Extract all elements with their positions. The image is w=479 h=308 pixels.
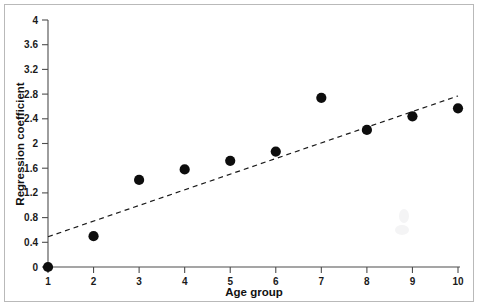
y-tick-marks [42,20,48,267]
x-tick-label: 4 [182,276,188,287]
x-tick-label: 7 [319,276,325,287]
data-point [134,175,144,185]
data-point [88,231,98,241]
y-tick-label: 3.2 [24,64,38,75]
data-point [453,103,463,113]
data-point [180,164,190,174]
data-point [43,262,53,272]
scatter-plot: 00.40.81.21.622.42.83.23.64 12345678910 … [0,0,479,308]
y-axis-title: Regression coefficient [14,82,26,206]
x-axis-title: Age group [225,286,283,298]
y-tick-labels: 00.40.81.21.622.42.83.23.64 [24,15,38,273]
data-points [43,93,463,272]
x-tick-label: 2 [91,276,97,287]
y-tick-label: 0.4 [24,237,38,248]
y-axis [42,20,48,267]
x-tick-label: 8 [364,276,370,287]
data-point [362,125,372,135]
data-point [316,93,326,103]
y-tick-label: 0.8 [24,212,38,223]
y-tick-label: 3.6 [24,39,38,50]
x-tick-label: 10 [452,276,464,287]
y-tick-label: 2.8 [24,89,38,100]
data-point [407,111,417,121]
x-tick-label: 1 [45,276,51,287]
x-tick-label: 9 [410,276,416,287]
figure-container: 00.40.81.21.622.42.83.23.64 12345678910 … [0,0,479,308]
data-point [225,156,235,166]
x-axis [48,267,460,273]
y-tick-label: 0 [32,262,38,273]
y-tick-label: 2.4 [24,113,38,124]
y-tick-label: 2 [32,138,38,149]
trend-line [48,96,458,237]
y-tick-label: 1.2 [24,187,38,198]
x-tick-label: 3 [136,276,142,287]
scan-artifact [395,209,409,235]
data-point [271,146,281,156]
trend-line-group [48,96,458,237]
y-tick-label: 4 [32,15,38,26]
y-tick-label: 1.6 [24,163,38,174]
x-tick-marks [48,267,458,273]
